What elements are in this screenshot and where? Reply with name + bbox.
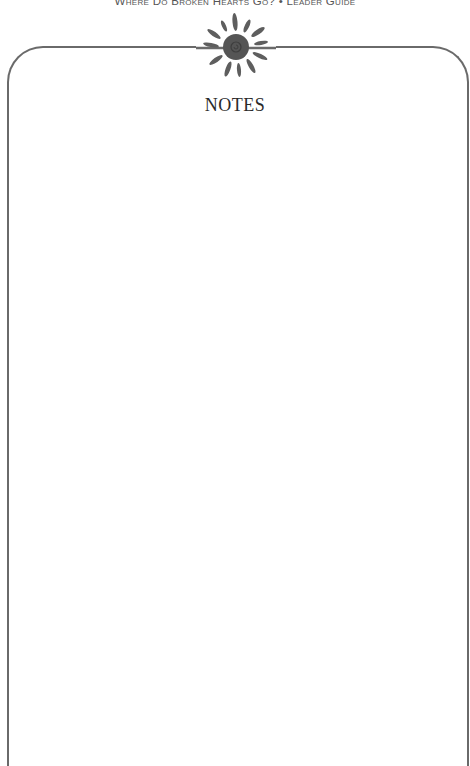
sun-icon bbox=[196, 12, 276, 78]
running-header: Where Do Broken Hearts Go? • Leader Guid… bbox=[0, 0, 470, 7]
notes-area bbox=[20, 130, 450, 730]
page-title: NOTES bbox=[0, 95, 470, 116]
